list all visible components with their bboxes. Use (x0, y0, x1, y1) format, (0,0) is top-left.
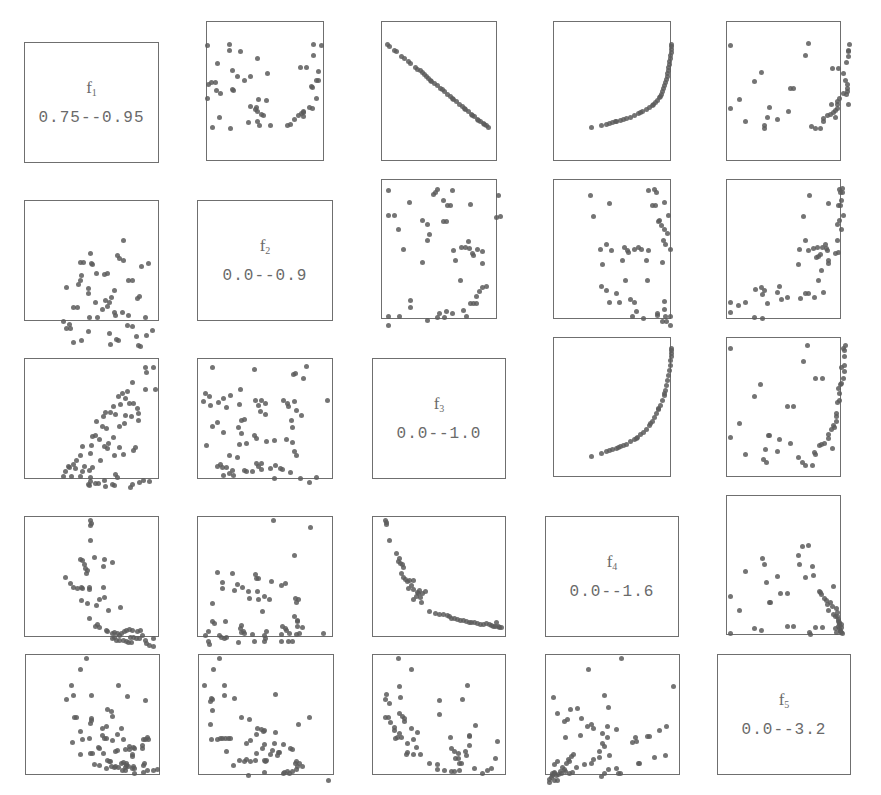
data-point (135, 406, 140, 411)
data-point (810, 564, 815, 569)
data-point (101, 585, 106, 590)
data-point (265, 71, 270, 76)
data-point (134, 334, 139, 339)
data-point (254, 436, 259, 441)
data-point (563, 735, 568, 740)
data-point (638, 110, 643, 115)
data-point (737, 421, 742, 426)
data-point (307, 715, 312, 720)
data-point (97, 437, 102, 442)
scatter-panel-r5-c1 (25, 654, 160, 775)
data-point (105, 304, 110, 309)
data-point (437, 712, 442, 717)
data-point (764, 580, 769, 585)
data-point (837, 96, 842, 101)
data-point (384, 692, 389, 697)
data-point (816, 278, 821, 283)
variable-range: 0.75--0.95 (38, 109, 144, 127)
data-point (796, 262, 801, 267)
data-point (846, 54, 851, 59)
data-point (639, 247, 644, 252)
data-point (846, 49, 851, 54)
data-point (425, 222, 430, 227)
data-point (210, 125, 215, 130)
data-point (88, 721, 93, 726)
data-point (97, 763, 102, 768)
data-point (259, 467, 264, 472)
data-point (139, 264, 144, 269)
data-point (321, 631, 326, 636)
data-point (227, 42, 232, 47)
data-point (264, 758, 269, 763)
data-point (242, 631, 247, 636)
data-point (407, 200, 412, 205)
data-point (296, 722, 301, 727)
data-point (292, 117, 297, 122)
data-point (646, 188, 651, 193)
data-point (791, 624, 796, 629)
data-point (228, 393, 233, 398)
data-point (325, 398, 330, 403)
data-point (281, 771, 286, 776)
data-point (256, 97, 261, 102)
data-point (819, 268, 824, 273)
data-point (414, 745, 419, 750)
scatter-panel-r5-c4 (545, 654, 680, 775)
data-point (646, 248, 651, 253)
data-point (728, 631, 733, 636)
data-point (791, 86, 796, 91)
data-point (141, 737, 146, 742)
data-point (465, 683, 470, 688)
data-point (228, 736, 233, 741)
data-point (88, 538, 93, 543)
data-point (246, 773, 251, 778)
data-point (598, 247, 603, 252)
data-point (260, 746, 265, 751)
data-point (210, 424, 215, 429)
data-point (607, 300, 612, 305)
data-point (250, 469, 255, 474)
data-point (474, 301, 479, 306)
data-point (602, 771, 607, 776)
data-point (126, 313, 131, 318)
data-point (474, 294, 479, 299)
data-point (109, 709, 114, 714)
data-point (117, 424, 122, 429)
data-point (90, 262, 95, 267)
scatter-panel-r1-c2 (206, 21, 324, 161)
data-point (230, 68, 235, 73)
data-point (236, 640, 241, 645)
data-point (273, 692, 278, 697)
data-point (760, 556, 765, 561)
data-point (760, 316, 765, 321)
data-point (835, 222, 840, 227)
data-point (835, 238, 840, 243)
data-point (752, 315, 757, 320)
data-point (404, 752, 409, 757)
data-point (290, 425, 295, 430)
data-point (806, 41, 811, 46)
data-point (80, 586, 85, 591)
data-point (616, 445, 621, 450)
data-point (796, 455, 801, 460)
data-point (235, 455, 240, 460)
data-point (826, 261, 831, 266)
data-point (752, 394, 757, 399)
data-point (107, 331, 112, 336)
data-point (285, 123, 290, 128)
data-point (667, 368, 672, 373)
data-point (662, 200, 667, 205)
data-point (272, 438, 277, 443)
data-point (264, 98, 269, 103)
data-point (658, 94, 663, 99)
data-point (129, 640, 134, 645)
data-point (655, 313, 660, 318)
data-point (813, 376, 818, 381)
data-point (498, 214, 503, 219)
data-point (401, 565, 406, 570)
data-point (669, 42, 674, 47)
data-point (442, 768, 447, 773)
data-point (80, 444, 85, 449)
data-point (839, 625, 844, 630)
data-point (246, 589, 251, 594)
